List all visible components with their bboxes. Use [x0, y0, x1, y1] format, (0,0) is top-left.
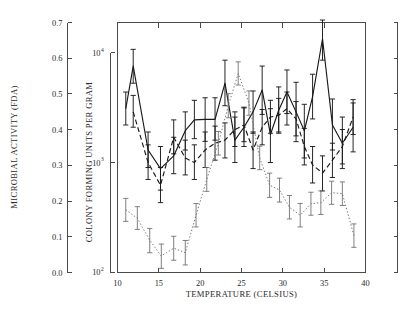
svg-text:15: 15	[155, 279, 163, 288]
svg-text:0.3: 0.3	[52, 161, 62, 170]
svg-text:0.1: 0.1	[52, 233, 62, 242]
svg-text:0.0: 0.0	[52, 269, 62, 278]
left-axis-title: MICROBIAL ACTIVITY (FDA)	[9, 85, 19, 208]
svg-text:0.5: 0.5	[52, 90, 62, 99]
svg-text:10: 10	[92, 268, 100, 277]
series-solid	[123, 20, 356, 190]
svg-text:30: 30	[279, 279, 287, 288]
chart-figure: 0.70.60.50.40.30.20.10.0 104103102 10152…	[0, 0, 419, 315]
svg-text:25: 25	[237, 279, 245, 288]
svg-text:35: 35	[320, 279, 328, 288]
inner-axis-title: COLONY FORMING UNITS PER GRAM	[84, 82, 94, 243]
plot-frame	[118, 23, 366, 273]
svg-text:2: 2	[101, 266, 104, 272]
chart-canvas: 0.70.60.50.40.30.20.10.0 104103102 10152…	[0, 0, 419, 315]
left-axis-microbial-activity: 0.70.60.50.40.30.20.10.0	[52, 19, 71, 278]
svg-text:0.7: 0.7	[52, 19, 62, 28]
svg-text:40: 40	[361, 279, 369, 288]
svg-text:10: 10	[113, 279, 121, 288]
data-series-group	[123, 20, 356, 268]
svg-text:0.4: 0.4	[52, 126, 63, 135]
svg-text:4: 4	[101, 47, 104, 53]
x-axis-title: TEMPERATURE (CELSIUS)	[186, 289, 298, 299]
axis-titles-group: MICROBIAL ACTIVITY (FDA)COLONY FORMING U…	[9, 82, 297, 299]
right-axis-unlabeled	[394, 23, 398, 273]
svg-text:0.6: 0.6	[52, 54, 62, 63]
svg-text:20: 20	[196, 279, 204, 288]
svg-text:3: 3	[101, 156, 104, 162]
svg-text:10: 10	[92, 49, 100, 58]
inner-axis-colony-forming-units: 104103102	[92, 47, 114, 278]
series-dashed	[131, 92, 356, 203]
svg-text:0.2: 0.2	[52, 197, 62, 206]
